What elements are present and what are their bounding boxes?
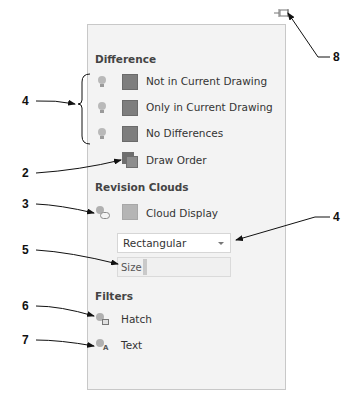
callout-4-dropdown: 4: [333, 210, 340, 224]
callout-2: 2: [22, 166, 29, 180]
callout-6: 6: [22, 299, 29, 313]
callout-3: 3: [22, 197, 29, 211]
callout-annotations: [0, 0, 361, 411]
callout-4-difference: 4: [22, 94, 29, 108]
callout-5: 5: [22, 243, 29, 257]
callout-7: 7: [22, 333, 29, 347]
callout-8: 8: [333, 50, 340, 64]
